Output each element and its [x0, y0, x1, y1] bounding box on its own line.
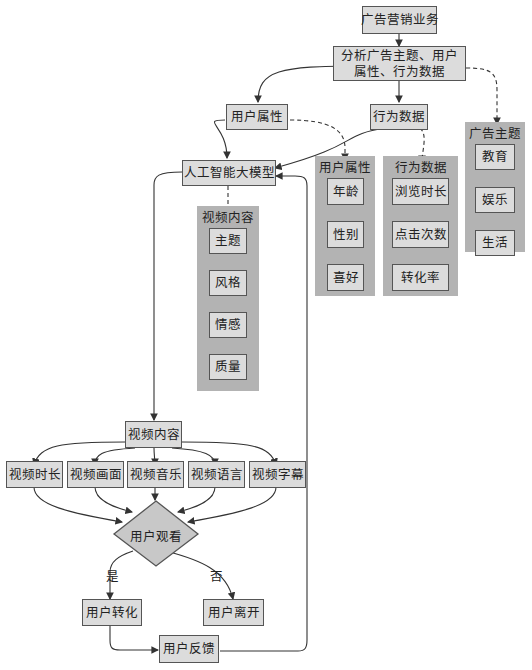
group-ad-theme: 广告主题 教育 娱乐 生活 [465, 122, 525, 252]
group-user-attr: 用户属性 年龄 性别 喜好 [315, 156, 375, 296]
item-education: 教育 [475, 144, 515, 170]
item-life: 生活 [475, 230, 515, 256]
item-quality: 质量 [209, 354, 247, 380]
item-conversion-rate: 转化率 [392, 264, 449, 291]
decision-label: 用户观看 [126, 526, 186, 545]
node-user-attr: 用户属性 [226, 104, 288, 130]
node-video-content: 视频内容 [125, 421, 182, 448]
group-behavior-title: 行为数据 [383, 157, 458, 176]
group-user-attr-title: 用户属性 [315, 157, 375, 176]
node-user-feedback: 用户反馈 [159, 635, 219, 663]
node-video-language: 视频语言 [188, 461, 245, 488]
item-browse-time: 浏览时长 [392, 178, 449, 205]
item-style: 风格 [209, 270, 247, 296]
item-emotion: 情感 [209, 312, 247, 338]
item-theme: 主题 [209, 228, 247, 254]
node-analyze-line1: 分析广告主题、用户 [341, 48, 458, 64]
node-analyze: 分析广告主题、用户 属性、行为数据 [333, 46, 466, 81]
node-analyze-line2: 属性、行为数据 [354, 64, 445, 80]
node-user-convert: 用户转化 [82, 599, 142, 626]
group-behavior: 行为数据 浏览时长 点击次数 转化率 [383, 156, 458, 296]
node-video-subtitles: 视频字幕 [249, 461, 306, 488]
no-label: 否 [210, 566, 223, 585]
group-video-content-title: 视频内容 [197, 207, 259, 226]
node-ai-model: 人工智能大模型 [182, 160, 276, 186]
yes-label: 是 [106, 566, 119, 585]
node-video-duration: 视频时长 [6, 461, 63, 488]
edges-layer [0, 0, 532, 670]
node-video-visuals: 视频画面 [67, 461, 124, 488]
node-user-leave: 用户离开 [203, 599, 264, 626]
node-video-music: 视频音乐 [127, 461, 184, 488]
item-preference: 喜好 [327, 264, 364, 291]
group-video-content: 视频内容 主题 风格 情感 质量 [197, 206, 259, 391]
item-click-count: 点击次数 [392, 221, 449, 248]
item-age: 年龄 [327, 178, 364, 205]
group-ad-theme-title: 广告主题 [465, 123, 525, 142]
item-entertainment: 娱乐 [475, 187, 515, 213]
node-ad-marketing: 广告营销业务 [362, 6, 437, 34]
item-gender: 性别 [327, 221, 364, 248]
node-behavior: 行为数据 [370, 104, 428, 130]
